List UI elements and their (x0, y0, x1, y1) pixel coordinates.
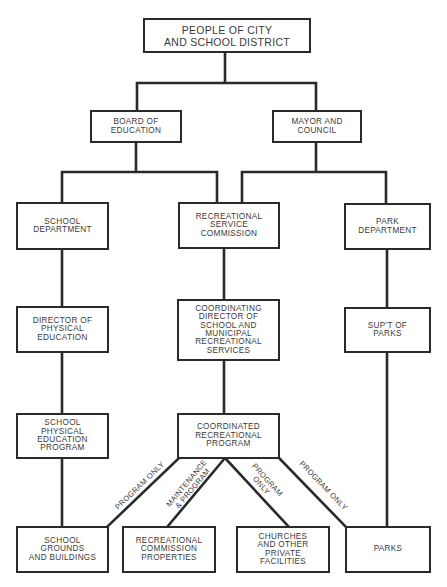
node-parks: PARKS (345, 526, 431, 573)
node-supt-of-parks: SUP'T OF PARKS (344, 307, 431, 353)
node-churches-private-facilities: CHURCHES AND OTHER PRIVATE FACILITIES (236, 526, 330, 573)
node-label: SCHOOL PHYSICAL EDUCATION PROGRAM (37, 419, 87, 453)
node-people-of-city: PEOPLE OF CITY AND SCHOOL DISTRICT (143, 18, 311, 53)
node-recreational-service-commission: RECREATIONAL SERVICE COMMISSION (178, 202, 280, 249)
node-mayor-and-council: MAYOR AND COUNCIL (272, 110, 362, 143)
node-school-grounds-and-buildings: SCHOOL GROUNDS AND BUILDINGS (16, 526, 109, 573)
node-label: RECREATIONAL SERVICE COMMISSION (196, 213, 263, 238)
node-label: BOARD OF EDUCATION (111, 118, 161, 135)
node-label: COORDINATED RECREATIONAL PROGRAM (195, 423, 262, 448)
node-school-physical-education-program: SCHOOL PHYSICAL EDUCATION PROGRAM (16, 413, 109, 459)
node-coordinated-recreational-program: COORDINATED RECREATIONAL PROGRAM (177, 413, 280, 459)
node-director-physical-education: DIRECTOR OF PHYSICAL EDUCATION (16, 306, 109, 353)
node-label: PARKS (374, 545, 403, 553)
node-recreational-commission-properties: RECREATIONAL COMMISSION PROPERTIES (122, 526, 216, 573)
node-school-department: SCHOOL DEPARTMENT (16, 202, 109, 250)
node-label: MAYOR AND COUNCIL (291, 118, 342, 135)
node-park-department: PARK DEPARTMENT (344, 203, 431, 250)
node-label: PARK DEPARTMENT (358, 218, 417, 235)
node-coordinating-director: COORDINATING DIRECTOR OF SCHOOL AND MUNI… (177, 299, 280, 361)
node-label: RECREATIONAL COMMISSION PROPERTIES (136, 537, 203, 562)
node-label: SCHOOL GROUNDS AND BUILDINGS (29, 537, 97, 562)
node-label: PEOPLE OF CITY AND SCHOOL DISTRICT (164, 24, 290, 48)
node-label: CHURCHES AND OTHER PRIVATE FACILITIES (258, 533, 309, 567)
connector-lines (0, 0, 447, 587)
node-label: SUP'T OF PARKS (368, 322, 407, 339)
node-board-of-education: BOARD OF EDUCATION (90, 110, 182, 143)
node-label: COORDINATING DIRECTOR OF SCHOOL AND MUNI… (195, 305, 262, 355)
node-label: SCHOOL DEPARTMENT (33, 218, 92, 235)
node-label: DIRECTOR OF PHYSICAL EDUCATION (33, 317, 93, 342)
